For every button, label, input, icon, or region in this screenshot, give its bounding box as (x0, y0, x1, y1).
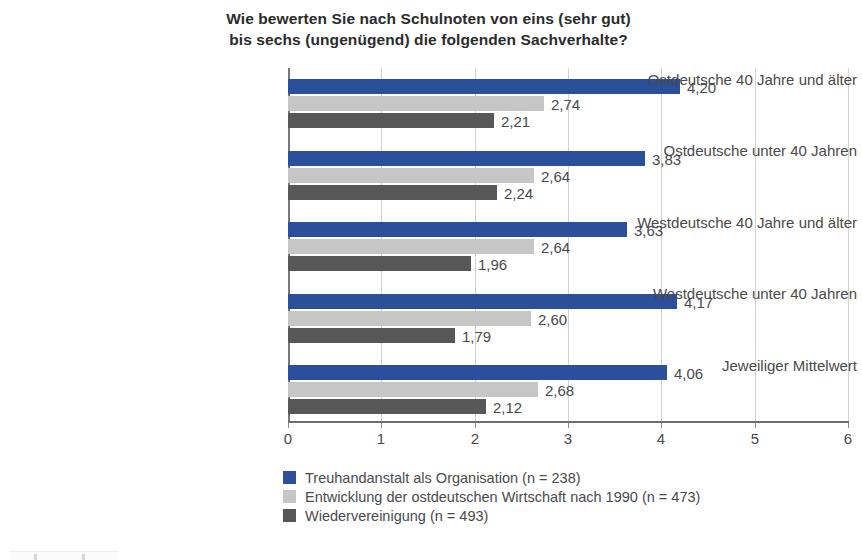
category-label-4: Westdeutsche unter 40 Jahren (579, 285, 857, 302)
cropped-footer-artifact (10, 551, 118, 560)
chart-title-line-2: bis sechs (ungenügend) die folgenden Sac… (0, 29, 857, 50)
bar-2-series-2 (288, 168, 534, 183)
category-label-1: Ostdeutsche 40 Jahre und älter (579, 71, 857, 88)
category-label-2: Ostdeutsche unter 40 Jahren (579, 142, 857, 159)
bar-value-label-3-series-3: 1,96 (478, 257, 507, 272)
category-label-3: Westdeutsche 40 Jahre und älter (579, 214, 857, 231)
bar-value-label-4-series-2: 2,60 (538, 312, 567, 327)
legend-label-1: Treuhandanstalt als Organisation (n = 23… (305, 470, 581, 486)
x-tickmark-6 (848, 423, 849, 428)
legend-item-3[interactable]: Wiedervereinigung (n = 493) (283, 506, 700, 525)
x-tick-label-3: 3 (553, 430, 583, 447)
bar-value-label-4-series-3: 1,79 (462, 329, 491, 344)
bar-3-series-3 (288, 256, 471, 271)
bar-value-label-2-series-2: 2,64 (541, 169, 570, 184)
bar-2-series-3 (288, 185, 497, 200)
bar-1-series-3 (288, 113, 494, 128)
legend-item-2[interactable]: Entwicklung der ostdeutschen Wirtschaft … (283, 487, 700, 506)
legend-swatch-icon-1 (283, 471, 296, 484)
legend-label-3: Wiedervereinigung (n = 493) (305, 508, 488, 524)
chart-title-line-1: Wie bewerten Sie nach Schulnoten von ein… (0, 8, 857, 29)
bar-5-series-2 (288, 382, 538, 397)
legend-swatch-icon-3 (283, 509, 296, 522)
bar-3-series-1 (288, 222, 627, 237)
x-tick-label-1: 1 (366, 430, 396, 447)
x-tickmark-3 (568, 423, 569, 428)
bar-3-series-2 (288, 239, 534, 254)
x-tick-label-5: 5 (740, 430, 770, 447)
bar-value-label-2-series-3: 2,24 (504, 186, 533, 201)
bar-value-label-1-series-3: 2,21 (501, 114, 530, 129)
bar-value-label-5-series-3: 2,12 (493, 400, 522, 415)
bar-value-label-5-series-2: 2,68 (545, 383, 574, 398)
chart-legend: Treuhandanstalt als Organisation (n = 23… (283, 468, 700, 525)
x-tickmark-1 (381, 423, 382, 428)
legend-swatch-icon-2 (283, 490, 296, 503)
bar-5-series-3 (288, 399, 486, 414)
x-tick-label-2: 2 (460, 430, 490, 447)
bar-4-series-2 (288, 311, 531, 326)
bar-value-label-3-series-2: 2,64 (541, 240, 570, 255)
x-tick-label-0: 0 (273, 430, 303, 447)
bar-value-label-1-series-2: 2,74 (551, 97, 580, 112)
x-tick-label-4: 4 (646, 430, 676, 447)
x-tickmark-2 (475, 423, 476, 428)
legend-label-2: Entwicklung der ostdeutschen Wirtschaft … (305, 489, 700, 505)
x-tickmark-0 (288, 423, 289, 428)
chart-title: Wie bewerten Sie nach Schulnoten von ein… (0, 8, 857, 50)
x-tickmark-4 (661, 423, 662, 428)
legend-item-1[interactable]: Treuhandanstalt als Organisation (n = 23… (283, 468, 700, 487)
bar-4-series-3 (288, 328, 455, 343)
x-tick-label-6: 6 (833, 430, 862, 447)
bar-1-series-2 (288, 96, 544, 111)
x-tickmark-5 (755, 423, 756, 428)
category-label-5: Jeweiliger Mittelwert (579, 357, 857, 374)
